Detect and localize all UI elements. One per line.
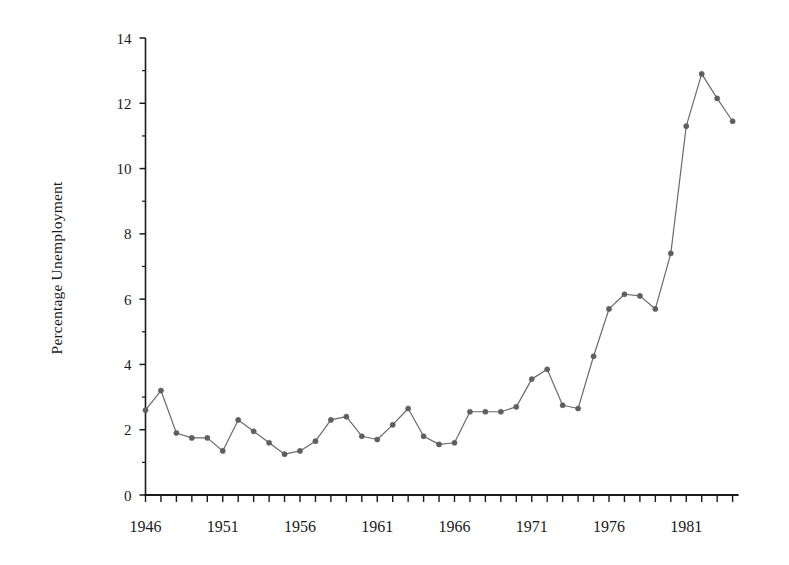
x-tick-label: 1946 (130, 518, 162, 535)
data-point-marker (637, 293, 642, 298)
data-point-marker (344, 414, 349, 419)
data-point-marker (282, 452, 287, 457)
data-point-marker (699, 71, 704, 76)
data-point-marker (313, 439, 318, 444)
data-point-marker (606, 306, 611, 311)
data-line-percentage-unemployment (146, 74, 733, 454)
x-tick-label: 1981 (670, 518, 702, 535)
data-point-marker (467, 409, 472, 414)
data-point-marker (684, 124, 689, 129)
y-axis-title: Percentage Unemployment (48, 181, 65, 354)
data-point-marker (668, 251, 673, 256)
data-point-marker (498, 409, 503, 414)
x-tick-label: 1956 (284, 518, 316, 535)
data-point-marker (328, 417, 333, 422)
x-tick-label: 1971 (516, 518, 548, 535)
data-point-marker (205, 435, 210, 440)
data-point-marker (220, 448, 225, 453)
y-tick-label: 12 (117, 96, 132, 112)
data-point-marker (715, 96, 720, 101)
y-tick-label: 0 (124, 488, 132, 504)
x-tick-label: 1966 (439, 518, 471, 535)
data-point-marker (483, 409, 488, 414)
data-point-marker (436, 442, 441, 447)
data-point-marker (297, 448, 302, 453)
x-axis-ticks: 19461951195619611966197119761981 (130, 495, 733, 535)
data-point-marker (591, 354, 596, 359)
data-point-marker (514, 404, 519, 409)
data-markers (143, 71, 735, 456)
data-point-marker (730, 119, 735, 124)
data-point-marker (143, 408, 148, 413)
y-tick-label: 8 (124, 226, 132, 242)
data-point-marker (560, 403, 565, 408)
data-point-marker (267, 440, 272, 445)
data-point-marker (375, 437, 380, 442)
data-point-marker (359, 434, 364, 439)
data-point-marker (236, 417, 241, 422)
y-tick-label: 10 (117, 161, 132, 177)
line-chart: 0246810121419461951195619611966197119761… (0, 0, 789, 565)
x-tick-label: 1976 (593, 518, 625, 535)
data-point-marker (421, 434, 426, 439)
x-tick-label: 1951 (207, 518, 239, 535)
y-tick-label: 4 (124, 357, 132, 373)
data-point-marker (158, 388, 163, 393)
data-point-marker (653, 306, 658, 311)
data-point-marker (622, 292, 627, 297)
y-axis-ticks: 02468101214 (117, 31, 146, 504)
y-tick-label: 2 (124, 422, 132, 438)
data-point-marker (390, 422, 395, 427)
y-tick-label: 14 (117, 31, 133, 47)
data-point-marker (174, 430, 179, 435)
data-point-marker (545, 367, 550, 372)
data-point-marker (251, 429, 256, 434)
data-point-marker (576, 406, 581, 411)
y-tick-label: 6 (124, 292, 132, 308)
x-tick-label: 1961 (361, 518, 393, 535)
data-point-marker (452, 440, 457, 445)
chart-figure: 0246810121419461951195619611966197119761… (0, 0, 789, 565)
data-point-marker (406, 406, 411, 411)
data-point-marker (189, 435, 194, 440)
data-point-marker (529, 377, 534, 382)
